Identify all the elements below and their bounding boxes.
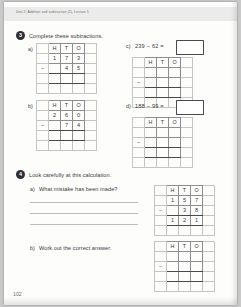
grid-minuend-t[interactable]: 6 [61,111,73,121]
grid-cell-blank[interactable] [203,282,215,292]
grid-cell-blank[interactable] [155,196,167,206]
grid-cell-blank[interactable] [181,88,193,98]
grid-minuend-h[interactable] [167,252,179,262]
grid-cell-blank[interactable] [85,84,97,94]
grid-cell-blank[interactable] [155,226,167,236]
grid-cell-blank[interactable] [167,226,179,236]
grid-cell-blank[interactable] [203,242,215,252]
grid-cell-blank[interactable] [85,131,97,141]
grid-cell-blank[interactable] [37,131,49,141]
grid-minuend-t[interactable] [179,252,191,262]
grid-answer-o[interactable] [169,148,181,158]
grid-cell-blank[interactable] [37,141,49,151]
grid-cell-blank[interactable] [37,84,49,94]
grid-minuend-t[interactable] [157,128,169,138]
grid-minuend-t[interactable]: 7 [61,54,73,64]
grid-cell-blank[interactable] [37,44,49,54]
grid-subtrahend-h[interactable] [145,138,157,148]
grid-answer-h[interactable] [145,148,157,158]
grid-cell-blank[interactable] [155,242,167,252]
grid-minuend-t[interactable] [157,68,169,78]
grid-subtrahend-t[interactable] [157,78,169,88]
grid-cell-blank[interactable] [203,226,215,236]
grid-cell-blank[interactable] [181,158,193,168]
grid-cell-blank[interactable] [133,58,145,68]
grid-subtrahend-t[interactable]: 4 [61,64,73,74]
grid-4b[interactable]: H T O − [154,241,215,292]
grid-cell-blank[interactable] [73,84,85,94]
grid-subtrahend-h[interactable] [49,121,61,131]
grid-cell-blank[interactable] [181,118,193,128]
writing-rule-line[interactable] [30,213,138,214]
grid-cell-blank[interactable] [37,54,49,64]
grid-subtrahend-h[interactable] [167,262,179,272]
grid-minuend-h[interactable] [145,128,157,138]
grid-cell-blank[interactable] [203,196,215,206]
writing-rule-line[interactable] [30,202,138,203]
writing-rule-line[interactable] [30,224,138,225]
grid-subtrahend-t[interactable] [157,138,169,148]
grid-cell-blank[interactable] [203,186,215,196]
grid-cell-blank[interactable] [85,101,97,111]
grid-subtrahend-h[interactable] [49,64,61,74]
grid-cell-blank[interactable] [155,186,167,196]
grid-cell-blank[interactable] [181,128,193,138]
grid-minuend-h[interactable]: 1 [49,54,61,64]
grid-cell-blank[interactable] [181,138,193,148]
grid-cell-blank[interactable] [203,216,215,226]
grid-answer-o[interactable] [73,131,85,141]
grid-cell-blank[interactable] [181,68,193,78]
grid-cell-blank[interactable] [133,128,145,138]
grid-cell-blank[interactable] [85,141,97,151]
grid-cell-blank[interactable] [155,216,167,226]
grid-cell-blank[interactable] [49,84,61,94]
grid-cell-blank[interactable] [155,252,167,262]
grid-answer-h[interactable] [145,88,157,98]
grid-cell-blank[interactable] [133,68,145,78]
grid-cell-blank[interactable] [157,158,169,168]
grid-answer-o[interactable] [73,74,85,84]
grid-cell-blank[interactable] [133,118,145,128]
answer-box-3c[interactable] [176,40,204,55]
grid-minuend-h[interactable]: 2 [49,111,61,121]
grid-cell-blank[interactable] [37,74,49,84]
grid-cell-blank[interactable] [181,58,193,68]
grid-subtrahend-t[interactable] [179,262,191,272]
grid-cell-blank[interactable] [169,158,181,168]
grid-minuend-o[interactable]: 3 [73,54,85,64]
grid-cell-blank[interactable] [203,272,215,282]
grid-subtrahend-h[interactable] [145,78,157,88]
grid-cell-blank[interactable] [181,148,193,158]
grid-minuend-o[interactable] [169,68,181,78]
grid-cell-blank[interactable] [191,282,203,292]
grid-answer-o[interactable] [191,272,203,282]
grid-cell-blank[interactable] [49,141,61,151]
grid-cell-blank[interactable] [85,121,97,131]
answer-box-3d[interactable] [176,100,204,115]
grid-cell-blank[interactable] [85,111,97,121]
grid-cell-blank[interactable] [191,226,203,236]
grid-cell-blank[interactable] [155,282,167,292]
grid-cell-blank[interactable] [85,74,97,84]
grid-answer-t[interactable] [179,272,191,282]
grid-cell-blank[interactable] [179,226,191,236]
grid-4a-worked[interactable]: H T O 1 5 7 − 3 8 [154,185,215,236]
grid-cell-blank[interactable] [203,262,215,272]
grid-3d[interactable]: H T O − [132,117,193,168]
grid-minuend-h[interactable] [145,68,157,78]
grid-answer-h[interactable] [49,74,61,84]
grid-3b[interactable]: H T O 2 6 0 − 7 4 [36,100,97,151]
grid-cell-blank[interactable] [133,158,145,168]
grid-subtrahend-t[interactable]: 7 [61,121,73,131]
grid-subtrahend-o[interactable] [169,138,181,148]
grid-cell-blank[interactable] [179,282,191,292]
grid-minuend-o[interactable] [169,128,181,138]
grid-cell-blank[interactable] [155,272,167,282]
grid-cell-blank[interactable] [85,44,97,54]
grid-cell-blank[interactable] [181,78,193,88]
grid-answer-t[interactable] [61,74,73,84]
grid-cell-blank[interactable] [203,252,215,262]
grid-cell-blank[interactable] [37,101,49,111]
grid-cell-blank[interactable] [61,141,73,151]
grid-answer-o[interactable] [169,88,181,98]
